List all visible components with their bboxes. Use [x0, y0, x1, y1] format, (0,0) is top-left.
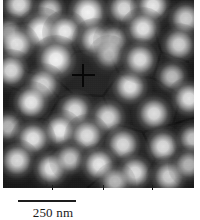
micrograph-image	[3, 0, 194, 188]
crosshair-vertical-bar	[82, 64, 84, 87]
micrograph-figure: 250 nm	[0, 0, 200, 220]
crosshair-cursor	[72, 64, 95, 87]
axis-tick	[52, 185, 53, 190]
axis-tick	[152, 185, 153, 190]
grain-boundary-network	[3, 0, 194, 188]
scale-bar	[18, 200, 76, 202]
scale-bar-label: 250 nm	[18, 205, 88, 220]
axis-tick	[103, 185, 104, 190]
